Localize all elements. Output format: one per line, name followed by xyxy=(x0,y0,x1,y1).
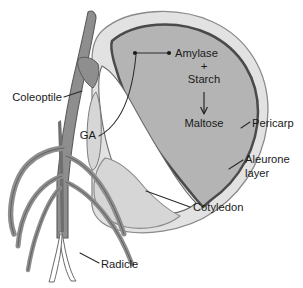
label-maltose: Maltose xyxy=(184,117,223,129)
label-amylase: Amylase xyxy=(175,47,218,59)
label-ga: GA xyxy=(80,129,97,141)
amylase-arrow-dot xyxy=(167,51,171,55)
label-cotyledon: Cotyledon xyxy=(193,201,243,213)
label-radicle: Radicle xyxy=(101,258,138,270)
label-coleoptile: Coleoptile xyxy=(12,91,62,103)
aleurone-origin-dot xyxy=(133,51,137,55)
root-mid-left xyxy=(18,176,62,246)
label-pericarp: Pericarp xyxy=(252,117,294,129)
diagram-canvas: Amylase + Starch Maltose GA Coleoptile P… xyxy=(0,0,303,288)
label-starch: Starch xyxy=(188,73,220,85)
label-plus: + xyxy=(201,60,208,72)
radicle-secondary xyxy=(49,234,62,282)
label-aleurone-line2: layer xyxy=(245,167,270,179)
seed-germination-diagram: Amylase + Starch Maltose GA Coleoptile P… xyxy=(0,0,303,288)
radicle-leader-line xyxy=(80,253,99,263)
label-aleurone-line1: Aleurone xyxy=(245,153,290,165)
